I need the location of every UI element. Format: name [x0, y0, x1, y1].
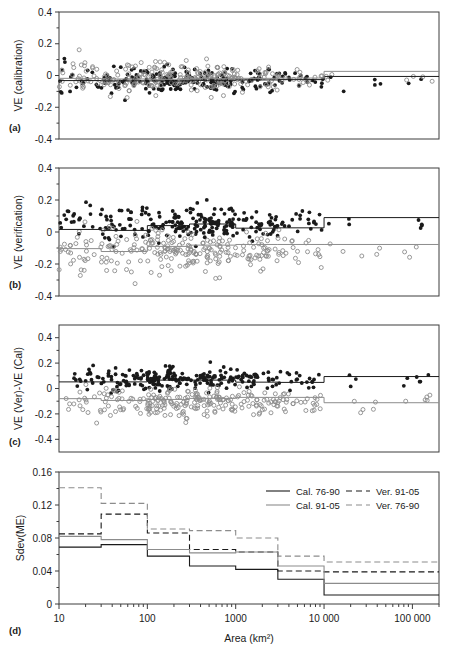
data-point — [157, 375, 161, 379]
data-point — [304, 409, 308, 413]
data-point — [296, 230, 300, 234]
data-point — [221, 407, 225, 411]
data-point — [354, 377, 358, 381]
data-point — [271, 377, 275, 381]
data-point — [114, 234, 118, 238]
data-point — [283, 237, 287, 241]
data-point — [138, 259, 142, 263]
data-point — [101, 232, 105, 236]
data-point — [234, 246, 238, 250]
data-point — [306, 217, 310, 221]
data-point — [298, 217, 302, 221]
data-point — [217, 405, 221, 409]
data-point — [105, 256, 109, 260]
data-point — [159, 257, 163, 261]
data-point — [295, 371, 299, 375]
data-point — [408, 255, 412, 259]
data-point — [99, 213, 103, 217]
data-point — [132, 243, 136, 247]
data-point — [298, 70, 302, 74]
data-point — [58, 221, 62, 225]
data-point — [88, 203, 92, 207]
scatter-points-a — [57, 48, 434, 102]
data-point — [148, 91, 152, 95]
data-point — [223, 225, 227, 229]
data-point — [71, 62, 75, 66]
data-point — [198, 252, 202, 256]
data-point — [78, 255, 82, 259]
data-point — [266, 370, 270, 374]
y-tick-label-d-1: 0.12 — [33, 500, 53, 511]
data-point — [281, 249, 285, 253]
data-point — [286, 371, 290, 375]
data-point — [95, 421, 99, 425]
data-point — [169, 269, 173, 273]
data-point — [283, 71, 287, 75]
data-point — [242, 211, 246, 215]
data-point — [64, 217, 68, 221]
data-point — [202, 231, 206, 235]
data-point — [218, 369, 222, 373]
data-point — [402, 384, 406, 388]
data-point — [209, 95, 213, 99]
data-point — [97, 376, 101, 380]
data-point — [307, 386, 311, 390]
data-point — [104, 386, 108, 390]
scatter-points-b — [57, 198, 424, 286]
data-point — [414, 245, 418, 249]
data-point — [207, 230, 211, 234]
data-point — [109, 375, 113, 379]
data-point — [179, 87, 183, 91]
data-point — [139, 61, 143, 65]
data-point — [114, 372, 118, 376]
data-point — [78, 390, 82, 394]
data-point — [275, 376, 279, 380]
data-point — [119, 65, 123, 69]
data-point — [403, 250, 407, 254]
data-point — [313, 75, 317, 79]
data-point — [233, 212, 237, 216]
data-point — [195, 220, 199, 224]
data-point — [373, 78, 377, 82]
data-point — [118, 223, 122, 227]
y-tick-label-c-3: -0.2 — [35, 409, 53, 420]
y-axis-a: 0.40.20-0.2-0.4 — [35, 7, 59, 145]
data-point — [420, 222, 424, 226]
data-point — [139, 377, 143, 381]
data-point — [405, 78, 409, 82]
y-axis-label-d: Sdev(ME) — [14, 515, 26, 562]
y-tick-label-c-4: -0.4 — [35, 434, 53, 445]
data-point — [133, 228, 137, 232]
data-point — [221, 94, 225, 98]
panel-label-a: (a) — [9, 122, 21, 133]
data-point — [164, 255, 168, 259]
data-point — [235, 368, 239, 372]
panel-label-d: (d) — [9, 625, 21, 636]
data-point — [144, 87, 148, 91]
data-point — [68, 90, 72, 94]
data-point — [224, 403, 228, 407]
data-point — [217, 219, 221, 223]
data-point — [242, 400, 246, 404]
data-point — [181, 241, 185, 245]
data-point — [100, 255, 104, 259]
data-point — [233, 383, 237, 387]
data-point — [208, 370, 212, 374]
data-point — [291, 246, 295, 250]
data-point — [129, 210, 133, 214]
data-point — [113, 269, 117, 273]
data-point — [125, 238, 129, 242]
legend: Cal. 76-90Ver. 91-05Cal. 91-05Ver. 76-90 — [266, 486, 419, 511]
data-point — [273, 392, 277, 396]
data-point — [140, 369, 144, 373]
data-point — [320, 81, 324, 85]
data-point — [72, 66, 76, 70]
data-point — [62, 57, 66, 61]
data-point — [121, 373, 125, 377]
data-point — [107, 372, 111, 376]
data-point — [195, 89, 199, 93]
data-point — [191, 207, 195, 211]
data-point — [203, 270, 207, 274]
legend-label-3: Ver. 76-90 — [376, 500, 419, 511]
legend-label-0: Cal. 76-90 — [296, 486, 340, 497]
